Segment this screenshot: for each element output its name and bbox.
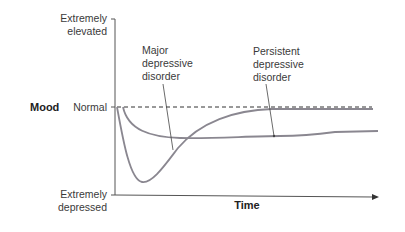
- major-leader-line: [163, 84, 173, 150]
- persistent-label-1: Persistent: [253, 45, 300, 57]
- x-axis: [115, 195, 374, 197]
- label-extremely-depressed-1: Extremely: [60, 188, 107, 200]
- label-extremely-elevated-1: Extremely: [60, 12, 107, 24]
- x-axis-arrow-icon: [372, 194, 379, 200]
- persistent-label-2: depressive: [253, 58, 304, 70]
- major-label-1: Major: [142, 44, 169, 56]
- label-extremely-elevated-2: elevated: [67, 25, 107, 37]
- label-extremely-depressed-2: depressed: [58, 201, 107, 213]
- persistent-label-3: disorder: [253, 71, 291, 83]
- x-axis-title: Time: [234, 199, 259, 211]
- persistent-leader-dot: [273, 135, 275, 137]
- major-label-3: disorder: [142, 70, 180, 82]
- major-label-2: depressive: [142, 57, 193, 69]
- major-depressive-curve: [117, 107, 373, 182]
- label-normal: Normal: [73, 101, 107, 113]
- mood-diagram: Extremely elevated Normal Mood Extremely…: [0, 0, 405, 232]
- y-axis-title: Mood: [30, 101, 59, 113]
